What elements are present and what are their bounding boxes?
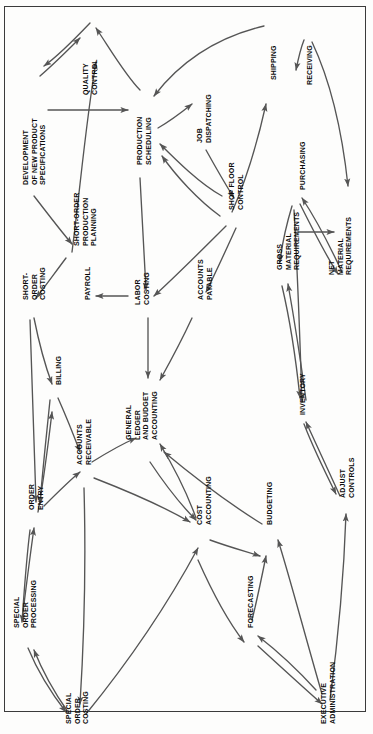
node-label-line: BUDGETING [266,482,275,525]
node-label-line: COSTING [82,691,91,724]
node-label-line: BILLING [55,356,64,385]
node-label-line: PAYROLL [84,267,93,300]
node-label-gross_material[interactable]: GROSSMATERIALREQUIREMENTS [276,212,302,270]
node-label-line: ACCOUNTS [76,419,85,465]
node-label-forecasting[interactable]: FORECASTING [247,575,256,628]
node-label-line: PRODUCTION [82,193,91,246]
node-label-general_ledger[interactable]: GENERALLEDGERAND BUDGETACCOUNTING [125,391,159,440]
node-label-shipping[interactable]: SHIPPING [270,45,279,80]
node-label-line: ORDER [74,691,83,724]
node-label-line: SPECIFICATIONS [39,118,48,185]
node-label-line: PRODUCTION [136,116,145,165]
diagram-canvas: DEVELOPMENTOF NEW PRODUCTSPECIFICATIONSQ… [0,0,373,734]
node-label-line: EXECUTIVE [320,662,329,724]
node-label-exec_admin[interactable]: EXECUTIVEADMINISTRATION [320,662,337,724]
node-label-line: ENTRY [37,484,46,510]
node-label-line: COSTING [143,272,152,305]
node-label-net_material[interactable]: NETMATERIALREQUIREMENTS [328,217,354,275]
node-label-line: LEDGER [134,391,143,440]
node-label-line: INVENTORY [299,373,308,415]
node-label-line: PAYABLE [206,259,215,300]
node-label-shop_floor[interactable]: SHOP FLOORCONTROL [228,162,245,210]
node-label-line: SHOP FLOOR [228,162,237,210]
node-label-line: JOB [196,94,205,143]
node-label-line: ORDER [22,580,31,628]
node-label-line: CONTROLS [348,458,357,498]
node-label-line: ACCOUNTS [197,259,206,300]
node-label-labor_costing[interactable]: LABORCOSTING [134,272,151,305]
node-label-line: REQUIREMENTS [345,217,354,275]
node-label-line: SCHEDULING [145,116,154,165]
node-label-dev_new_product[interactable]: DEVELOPMENTOF NEW PRODUCTSPECIFICATIONS [22,118,48,185]
node-label-line: NET [328,217,337,275]
node-label-line: ACCOUNTING [205,476,214,525]
node-label-line: CONTROL [91,59,100,95]
node-label-line: ORDER [28,484,37,510]
node-label-short_order_plan[interactable]: SHORT-ORDERPRODUCTIONPLANNING [73,193,99,246]
node-label-line: FORECASTING [247,575,256,628]
node-label-short_order_cost[interactable]: SHORT-ORDERCOSTING [22,267,48,300]
node-label-line: DISPATCHING [205,94,214,143]
node-label-inventory[interactable]: INVENTORY [299,373,308,415]
node-label-production_sched[interactable]: PRODUCTIONSCHEDULING [136,116,153,165]
node-label-adjust_controls[interactable]: ADJUSTCONTROLS [339,458,356,498]
node-label-line: ORDER [31,267,40,300]
node-label-receiving[interactable]: RECEIVING [306,45,315,85]
node-label-accounts_payable[interactable]: ACCOUNTSPAYABLE [197,259,214,300]
node-label-special_order_proc[interactable]: SPECIALORDERPROCESSING [13,580,39,628]
node-label-line: COST [196,476,205,525]
node-label-special_order_cost[interactable]: SPECIALORDERCOSTING [65,691,91,724]
node-label-line: AND BUDGET [142,391,151,440]
node-label-line: ADJUST [339,458,348,498]
node-label-line: SHORT- [22,267,31,300]
node-label-quality_control[interactable]: QUALITYCONTROL [82,59,99,95]
node-label-line: SPECIAL [13,580,22,628]
node-label-line: GENERAL [125,391,134,440]
node-label-line: RECEIVING [306,45,315,85]
node-label-billing[interactable]: BILLING [55,356,64,385]
node-label-line: RECEIVABLE [85,419,94,465]
node-label-line: MATERIAL [337,217,346,275]
node-label-line: ACCOUNTING [151,391,160,440]
node-label-line: MATERIAL [285,212,294,270]
node-label-cost_accounting[interactable]: COSTACCOUNTING [196,476,213,525]
node-label-line: QUALITY [82,59,91,95]
node-label-line: PLANNING [90,193,99,246]
node-label-job_dispatching[interactable]: JOBDISPATCHING [196,94,213,143]
node-label-line: SPECIAL [65,691,74,724]
node-label-payroll[interactable]: PAYROLL [84,267,93,300]
node-label-line: SHORT-ORDER [73,193,82,246]
node-label-budgeting[interactable]: BUDGETING [266,482,275,525]
node-label-line: DEVELOPMENT [22,118,31,185]
node-label-line: OF NEW PRODUCT [31,118,40,185]
node-label-line: REQUIREMENTS [293,212,302,270]
node-label-line: COSTING [39,267,48,300]
node-label-line: LABOR [134,272,143,305]
node-label-line: CONTROL [237,162,246,210]
node-label-line: SHIPPING [270,45,279,80]
node-label-purchasing[interactable]: PURCHASING [299,141,308,190]
node-label-line: PURCHASING [299,141,308,190]
node-label-line: GROSS [276,212,285,270]
node-label-order_entry[interactable]: ORDERENTRY [28,484,45,510]
node-label-line: PROCESSING [30,580,39,628]
node-label-line: ADMINISTRATION [329,662,338,724]
node-label-accounts_recv[interactable]: ACCOUNTSRECEIVABLE [76,419,93,465]
